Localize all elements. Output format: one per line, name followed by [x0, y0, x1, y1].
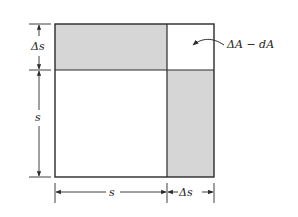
bottom-s-label: s: [109, 186, 115, 199]
corner-area-label: ΔA − dA: [226, 38, 274, 51]
curved-pointer-arrow: [193, 39, 224, 45]
right-strip: [167, 70, 214, 177]
area-increment-diagram: Δs s s Δs ΔA − dA: [0, 0, 298, 217]
bottom-delta-s-label: Δs: [178, 186, 193, 199]
top-strip: [55, 24, 167, 70]
left-s-label: s: [35, 111, 41, 124]
left-delta-s-label: Δs: [30, 40, 45, 53]
